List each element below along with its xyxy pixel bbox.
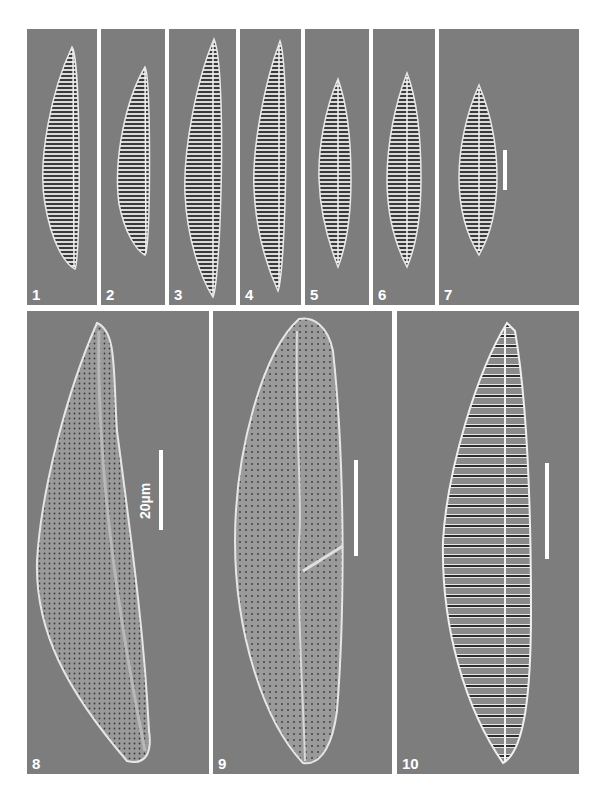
diatom-valve-3-image — [169, 29, 236, 305]
panel-label-1: 1 — [32, 287, 40, 302]
scale-bar-sem-8 — [159, 450, 163, 530]
diatom-valve-1-image — [27, 29, 97, 305]
panel-7: 7 — [439, 29, 579, 305]
diatom-valve-6-image — [373, 29, 435, 305]
diatom-valve-2-image — [101, 29, 165, 305]
panel-label-8: 8 — [32, 756, 40, 771]
diatom-valve-4-image — [240, 29, 301, 305]
panel-label-5: 5 — [310, 287, 318, 302]
panel-4: 4 — [240, 29, 301, 305]
panel-label-2: 2 — [106, 287, 114, 302]
panel-label-7: 7 — [444, 287, 452, 302]
panel-label-4: 4 — [245, 287, 253, 302]
diatom-valve-7-image — [439, 29, 579, 305]
panel-label-3: 3 — [174, 287, 182, 302]
panel-8: 20µm 8 — [27, 311, 209, 774]
panel-6: 6 — [373, 29, 435, 305]
panel-1: 1 — [27, 29, 97, 305]
scale-bar-label: 20µm — [137, 483, 153, 519]
scale-bar-sem-10 — [545, 463, 549, 559]
scale-bar-sem-9 — [354, 460, 358, 556]
scale-bar-lm — [503, 150, 507, 190]
panel-2: 2 — [101, 29, 165, 305]
panel-5: 5 — [305, 29, 369, 305]
panel-10: 10 — [397, 311, 579, 774]
panel-3: 3 — [169, 29, 236, 305]
diatom-valve-9-sem-image — [213, 311, 392, 774]
panel-label-6: 6 — [378, 287, 386, 302]
figure-plate: 1 2 3 4 5 — [27, 29, 579, 774]
panel-label-10: 10 — [402, 756, 419, 771]
diatom-valve-5-image — [305, 29, 369, 305]
panel-label-9: 9 — [218, 756, 226, 771]
diatom-valve-10-sem-image — [397, 311, 579, 774]
panel-9: 9 — [213, 311, 392, 774]
diatom-valve-8-sem-image — [27, 311, 209, 774]
